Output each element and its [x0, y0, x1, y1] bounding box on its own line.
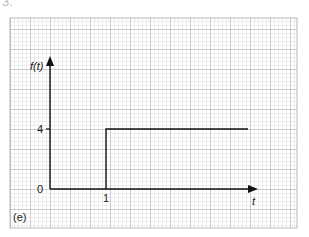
- step-function-graph: [0, 0, 309, 237]
- x-tick-label-1: 1: [103, 192, 109, 204]
- panel-label: (e): [13, 211, 26, 223]
- y-axis-label: f(t): [30, 60, 43, 72]
- x-axis-label: t: [252, 195, 255, 207]
- origin-label: 0: [37, 183, 43, 195]
- y-tick-label-4: 4: [37, 123, 43, 135]
